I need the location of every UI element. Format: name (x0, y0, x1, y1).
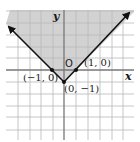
label-neg1-0: (−1, 0) (23, 72, 58, 83)
label-1-0: (1, 0) (84, 57, 111, 68)
origin-label: O (65, 58, 73, 69)
label-0-neg1: (0, −1) (64, 83, 99, 94)
point-1-0 (74, 68, 78, 72)
coordinate-graph: y x O (−1, 0) (0, −1) (1, 0) (0, 0, 140, 142)
x-axis-label: x (124, 70, 132, 83)
